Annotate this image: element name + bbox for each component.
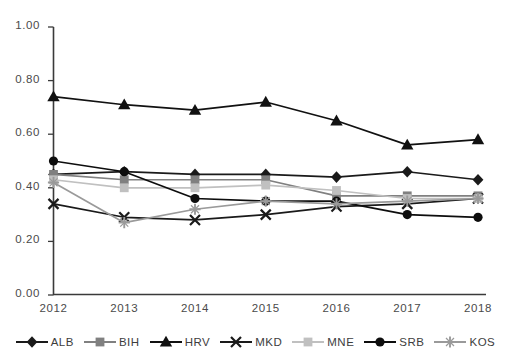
data-point-marker	[189, 204, 200, 215]
legend-item-mkd[interactable]: MKD	[219, 334, 282, 350]
data-point-marker	[473, 213, 482, 222]
data-point-marker	[402, 166, 413, 178]
legend-item-hrv[interactable]: HRV	[149, 334, 211, 350]
x-axis-tick-label: 2016	[314, 302, 360, 314]
series-hrv	[47, 90, 484, 149]
data-point-marker	[49, 156, 58, 165]
y-axis-tick-label: 0.40	[6, 180, 40, 192]
data-point-marker	[191, 175, 200, 184]
y-axis-tick-label: 0.00	[6, 287, 40, 299]
legend-marker-diamond-icon	[15, 334, 49, 350]
data-point-marker	[331, 171, 342, 183]
data-point-marker	[261, 181, 270, 190]
data-point-marker	[48, 177, 59, 188]
data-point-marker	[403, 210, 412, 219]
data-point-marker	[260, 96, 272, 107]
legend-marker-triangle-icon	[149, 334, 183, 350]
data-point-marker	[472, 133, 484, 144]
legend-item-alb[interactable]: ALB	[15, 334, 74, 350]
data-point-marker	[304, 338, 313, 347]
axes	[48, 27, 486, 295]
y-axis-tick-label: 0.20	[6, 233, 40, 245]
data-point-marker	[191, 183, 200, 192]
y-axis-tick-label: 0.80	[6, 73, 40, 85]
legend-marker-circle-icon	[363, 334, 397, 350]
data-point-marker	[402, 196, 413, 207]
legend-item-label: BIH	[119, 336, 140, 348]
legend-item-bih[interactable]: BIH	[83, 334, 140, 350]
x-axis-tick-label: 2017	[384, 302, 430, 314]
data-point-marker	[47, 90, 59, 101]
data-point-marker	[260, 196, 271, 207]
x-axis-tick-label: 2015	[243, 302, 289, 314]
y-axis-tick-label: 1.00	[6, 19, 40, 31]
data-point-marker	[445, 336, 456, 347]
data-point-marker	[120, 175, 129, 184]
data-point-marker	[190, 194, 199, 203]
legend-item-kos[interactable]: KOS	[433, 334, 495, 350]
data-point-marker	[96, 338, 105, 347]
legend-item-label: KOS	[469, 336, 495, 348]
y-axis-tick-label: 0.60	[6, 126, 40, 138]
data-point-marker	[472, 193, 483, 204]
legend-marker-plus-icon	[433, 334, 467, 350]
data-point-marker	[120, 183, 129, 192]
data-point-marker	[331, 198, 342, 209]
legend-marker-square-icon	[291, 334, 325, 350]
legend-item-label: ALB	[51, 336, 74, 348]
data-point-marker	[332, 186, 341, 195]
legend-marker-square-icon	[83, 334, 117, 350]
legend-item-label: HRV	[185, 336, 211, 348]
chart-legend: ALBBIHHRVMKDMNESRBKOS	[0, 330, 510, 354]
x-axis-tick-label: 2013	[101, 302, 147, 314]
data-point-marker	[120, 167, 129, 176]
legend-marker-x-icon	[219, 334, 253, 350]
legend-item-srb[interactable]: SRB	[363, 334, 424, 350]
x-axis-tick-label: 2012	[31, 302, 77, 314]
legend-item-mne[interactable]: MNE	[291, 334, 354, 350]
data-point-marker	[473, 174, 484, 186]
x-axis-tick-label: 2014	[172, 302, 218, 314]
data-point-marker	[26, 336, 37, 348]
legend-item-label: SRB	[399, 336, 424, 348]
data-series-layer	[47, 90, 484, 228]
legend-item-label: MKD	[255, 336, 282, 348]
line-chart: 0.000.200.400.600.801.00 201220132014201…	[0, 0, 510, 363]
legend-item-label: MNE	[327, 336, 354, 348]
data-point-marker	[119, 217, 130, 228]
data-point-marker	[376, 337, 385, 346]
x-axis-tick-label: 2018	[455, 302, 501, 314]
